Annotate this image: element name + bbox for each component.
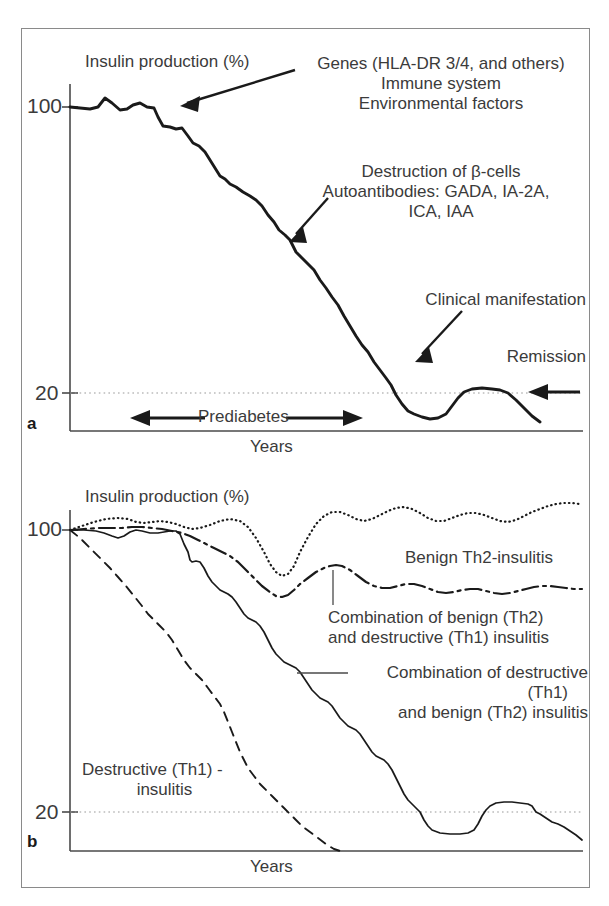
annotation-destruction-line1: Destruction of β-cells xyxy=(296,162,586,181)
panel-a-arrow-genes xyxy=(180,70,295,112)
annotation-benign-th2: Benign Th2-insulitis xyxy=(405,548,585,567)
panel-b-y-axis-title: Insulin production (%) xyxy=(85,487,249,506)
annotation-remission: Remission xyxy=(436,347,586,366)
annotation-destructive-th1-line1: Destructive (Th1) - xyxy=(82,760,282,779)
panel-a-axes xyxy=(62,84,583,431)
annotation-genes-line3: Environmental factors xyxy=(296,94,586,113)
annotation-combination-destructive-line2: (Th1) xyxy=(350,683,568,702)
annotation-genes-line1: Genes (HLA-DR 3/4, and others) xyxy=(296,54,586,73)
panel-b-letter: b xyxy=(27,832,37,851)
annotation-combination-destructive-line3: and benign (Th2) insulitis xyxy=(330,703,588,722)
figure-page: Insulin production (%) 100 20 Years a Ge… xyxy=(0,0,609,906)
annotation-prediabetes: Prediabetes xyxy=(198,407,288,426)
panel-b-ytick-100: 100 xyxy=(27,517,62,541)
panel-a-ytick-100: 100 xyxy=(27,94,62,118)
panel-a-letter: a xyxy=(27,414,36,433)
annotation-combination-destructive-line1: Combination of destructive xyxy=(350,663,588,682)
panel-a-ytick-20: 20 xyxy=(35,381,58,405)
panel-b-x-axis-title: Years xyxy=(250,857,293,876)
annotation-destruction-line3: ICA, IAA xyxy=(296,202,586,221)
annotation-destruction-line2: Autoantibodies: GADA, IA-2A, xyxy=(286,182,586,201)
annotation-destructive-th1-line2: insulitis xyxy=(82,780,247,799)
annotation-clinical-manifestation: Clinical manifestation xyxy=(386,290,586,309)
panel-b-curve-destructive-th1 xyxy=(70,530,340,851)
panel-a-x-axis-title: Years xyxy=(250,437,293,456)
annotation-genes-line2: Immune system xyxy=(296,74,586,93)
annotation-combination-benign-line2: and destructive (Th1) insulitis xyxy=(328,628,590,647)
annotation-combination-benign-line1: Combination of benign (Th2) xyxy=(328,608,588,627)
panel-a-curve xyxy=(70,98,540,422)
panel-b-ytick-20: 20 xyxy=(35,800,58,824)
panel-a-y-axis-title: Insulin production (%) xyxy=(85,52,249,71)
caption-clipped xyxy=(21,898,590,906)
panel-a-arrow-remission xyxy=(528,384,580,400)
